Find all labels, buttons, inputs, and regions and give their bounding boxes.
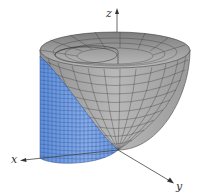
diagram-svg [0, 0, 199, 196]
y-axis [118, 150, 174, 184]
figure: x y z [0, 0, 199, 196]
z-axis-label: z [106, 8, 112, 19]
y-axis-label: y [176, 181, 182, 192]
paraboloid-interior [40, 32, 190, 68]
x-axis-label: x [11, 154, 17, 165]
